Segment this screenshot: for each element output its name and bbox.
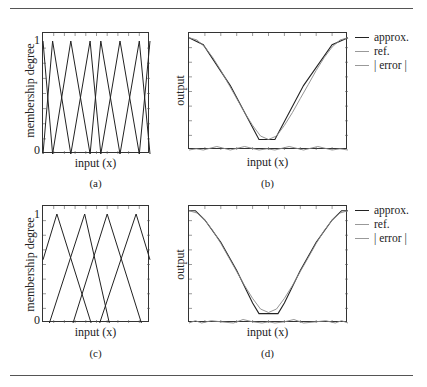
series-line-ref — [189, 211, 348, 313]
line-swatch-icon — [355, 37, 369, 38]
legend-item-error: | error | — [355, 58, 409, 72]
legend-item-ref: ref. — [355, 44, 409, 58]
line-swatch-icon — [355, 224, 369, 225]
legend-item-approx: approx. — [355, 203, 409, 217]
line-swatch-icon — [355, 210, 369, 211]
series-line-approx — [189, 38, 348, 140]
legend-item-ref: ref. — [355, 217, 409, 231]
series-line-approx — [189, 211, 348, 314]
y-axis-label: output — [173, 235, 188, 295]
x-axis-label: input (x) — [42, 156, 149, 171]
plot-area — [42, 32, 149, 153]
plot-svg-d — [189, 206, 348, 323]
y-axis-label: output — [173, 61, 188, 121]
panel-caption: (d) — [188, 347, 347, 359]
plot-svg-b — [189, 33, 348, 150]
top-rule — [10, 8, 413, 9]
series-line-mf7 — [120, 41, 150, 154]
plot-svg-a — [43, 33, 150, 154]
series-line-mf5 — [90, 41, 120, 154]
panel-caption: (a) — [42, 177, 149, 189]
x-axis-label: input (x) — [188, 325, 347, 340]
x-axis-label: input (x) — [188, 155, 347, 170]
legend-item-approx: approx. — [355, 30, 409, 44]
legend-item-error: | error | — [355, 231, 409, 245]
series-line-mf4 — [100, 214, 150, 323]
series-line-mf2 — [43, 41, 71, 154]
line-swatch-icon — [355, 238, 369, 239]
plot-area — [188, 32, 347, 149]
series-line-mf3 — [53, 41, 91, 154]
series-line-mf2 — [49, 214, 109, 323]
panel-caption: (b) — [188, 177, 347, 189]
y-axis-label: membership degree — [23, 31, 38, 151]
bottom-rule — [10, 375, 413, 376]
line-swatch-icon — [355, 65, 369, 66]
series-line-mf6 — [101, 41, 140, 154]
plot-area — [188, 205, 347, 322]
plot-svg-c — [43, 206, 150, 323]
panel-caption: (c) — [42, 347, 149, 359]
x-axis-label: input (x) — [42, 325, 149, 340]
line-swatch-icon — [355, 51, 369, 52]
legend: approx. ref. | error | — [355, 203, 409, 245]
y-axis-label: membership degree — [23, 205, 38, 325]
plot-area — [42, 205, 149, 322]
series-line-ref — [189, 38, 348, 140]
series-line-mf4 — [71, 41, 101, 154]
legend: approx. ref. | error | — [355, 30, 409, 72]
